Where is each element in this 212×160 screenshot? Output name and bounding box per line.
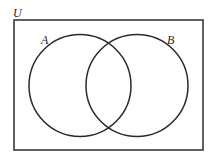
- set-b-label: B: [167, 33, 175, 47]
- set-a-circle: [29, 35, 131, 137]
- universe-label: U: [13, 6, 23, 20]
- set-b-circle: [86, 35, 188, 137]
- venn-diagram: U A B: [0, 0, 212, 160]
- set-a-label: A: [40, 33, 49, 47]
